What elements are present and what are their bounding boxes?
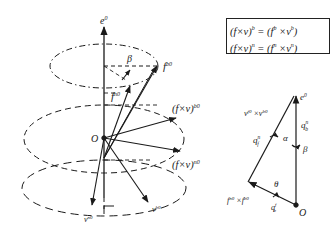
label-f-n0: fn0	[111, 90, 120, 102]
label-fxv-b0: (f×v)b0	[172, 103, 200, 115]
right-axis-label-e0: e0	[300, 92, 307, 102]
label-vf0-x-vb0: vf0 ×vb0	[244, 109, 268, 118]
right-origin-label: O	[299, 207, 306, 218]
origin-label-left: O	[91, 133, 98, 144]
label-fn0-x-fb0: fn0 ×fb0	[227, 196, 249, 205]
angle-theta: θ	[274, 179, 279, 189]
equation-nav-frame: (f×v)n = (fn ×vn)	[230, 37, 326, 54]
right-origin-point	[294, 203, 298, 207]
vector-v-n0	[92, 138, 104, 205]
label-v-b0: vb0	[152, 205, 161, 214]
label-fxv-n0: (f×v)n0	[172, 159, 200, 171]
angle-beta-right: β	[302, 144, 308, 154]
label-f-b0: fb0	[163, 60, 172, 72]
vector-fn0-x-fb0	[249, 182, 296, 205]
label-v-n0: vn0	[84, 215, 93, 224]
origin-point	[102, 136, 106, 140]
equation-box: (f×v)b = (fb ×vb) (f×v)n = (fn ×vn)	[226, 18, 330, 54]
left-figure	[22, 27, 186, 216]
vector-v-b0	[104, 138, 148, 202]
label-q-f-n: qnf	[253, 134, 261, 147]
axis-label-e0: e0	[100, 15, 107, 26]
equation-body-frame: (f×v)b = (fb ×vb)	[230, 20, 326, 37]
angle-alpha: α	[283, 133, 288, 143]
label-q-b-f: qfb	[271, 202, 277, 213]
vector-fxv-n0	[104, 138, 180, 151]
label-q-b-n: qnb	[301, 119, 309, 132]
angle-beta-left: β	[126, 53, 132, 64]
